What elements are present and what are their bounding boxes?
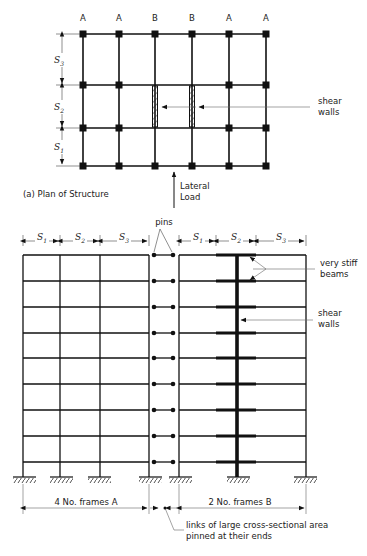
plan-column-label: A [263,13,269,23]
plan-column-label: B [189,13,195,23]
structure-diagram: A A B B A A [0,0,367,556]
stiff-beams-leader [250,269,266,280]
plan-caption: (a) Plan of Structure [23,189,109,199]
fixed-supports [13,477,317,483]
links-label: links of large cross-sectional area [186,520,328,530]
frame-beams [23,255,306,462]
plan-shear-walls-label: shear [318,96,342,106]
pins-leader [160,229,172,252]
elevation-view: pins S1 S2 S3 S1 S2 S3 [13,217,359,541]
stiff-beams-label: beams [320,269,349,279]
plan-grid [83,34,266,166]
frames-a-label: 4 No. frames A [54,497,117,507]
plan-column-label: A [226,13,232,23]
lateral-load-label: Lateral [180,181,210,191]
plan-view: A A B B A A [23,13,342,208]
links-label: pinned at their ends [186,531,273,541]
elevation-shear-walls-label: walls [318,319,340,329]
lateral-load-label: Load [180,192,200,202]
frames-b-label: 2 No. frames B [208,497,271,507]
elevation-shear-walls-label: shear [318,308,342,318]
pins-leader [154,229,160,252]
plan-column-label: A [80,13,86,23]
plan-column-label: B [152,13,158,23]
stiff-beams-label: very stiff [320,258,359,268]
link-pin [164,507,167,510]
elevation-top-dimensions [23,235,306,246]
plan-shear-wall [153,86,158,127]
plan-shear-wall [190,86,195,127]
pins-label: pins [155,217,173,227]
plan-columns [80,31,270,170]
stiff-beams-leader [250,257,266,269]
plan-column-label: A [116,13,122,23]
frame-columns [23,255,306,477]
plan-shear-walls-label: walls [318,107,340,117]
